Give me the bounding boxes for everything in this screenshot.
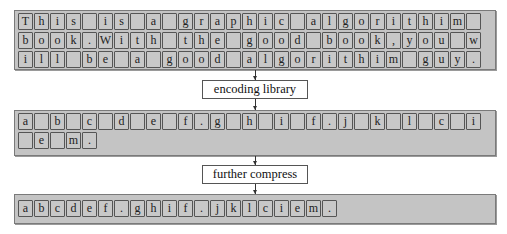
char-cell: . <box>194 113 209 130</box>
char-cell: a <box>242 51 257 68</box>
char-cell <box>162 113 177 130</box>
char-cell: f <box>306 113 321 130</box>
char-cell: s <box>114 13 129 30</box>
char-cell: l <box>34 51 49 68</box>
char-cell: r <box>370 13 385 30</box>
char-cell <box>450 113 465 130</box>
char-cell <box>162 13 177 30</box>
char-cell: i <box>18 51 33 68</box>
char-cell <box>114 51 129 68</box>
char-cell: y <box>450 51 465 68</box>
char-cell: b <box>322 32 337 49</box>
char-cell: c <box>274 13 289 30</box>
char-cell: o <box>258 32 273 49</box>
char-cell: i <box>466 113 481 130</box>
char-cell: i <box>98 13 113 30</box>
char-cell: a <box>146 13 161 30</box>
char-cell: g <box>418 51 433 68</box>
char-cell: i <box>258 13 273 30</box>
char-cell: l <box>322 13 337 30</box>
char-cell <box>226 113 241 130</box>
char-cell <box>18 132 33 149</box>
char-cell: o <box>274 32 289 49</box>
char-cell: o <box>418 32 433 49</box>
char-cell <box>258 113 273 130</box>
char-cell: i <box>114 32 129 49</box>
char-cell: d <box>210 51 225 68</box>
char-cell: c <box>82 113 97 130</box>
char-cell: g <box>130 200 145 217</box>
char-cell: t <box>178 32 193 49</box>
char-cell: m <box>306 200 321 217</box>
char-cell: c <box>258 200 273 217</box>
char-cell: . <box>194 200 209 217</box>
compressed-row: abcdef.ghif.jklciem. <box>18 200 492 218</box>
char-cell <box>306 32 321 49</box>
char-cell: i <box>322 51 337 68</box>
char-cell <box>290 13 305 30</box>
char-cell <box>130 113 145 130</box>
char-cell: i <box>162 200 177 217</box>
char-cell: t <box>402 13 417 30</box>
further-compress-label: further compress <box>202 165 308 184</box>
char-cell: j <box>338 113 353 130</box>
char-cell: w <box>466 32 481 49</box>
char-cell <box>386 113 401 130</box>
arrow-down-icon <box>255 99 256 110</box>
char-cell: a <box>18 200 33 217</box>
char-cell <box>402 51 417 68</box>
char-cell: d <box>66 200 81 217</box>
char-cell: o <box>338 32 353 49</box>
char-cell <box>450 32 465 49</box>
char-cell: h <box>146 32 161 49</box>
char-cell: r <box>306 51 321 68</box>
char-cell: k <box>370 113 385 130</box>
char-cell <box>34 113 49 130</box>
char-cell: k <box>370 32 385 49</box>
char-cell: l <box>258 51 273 68</box>
char-cell: a <box>18 113 33 130</box>
char-cell: o <box>194 51 209 68</box>
char-cell: p <box>226 13 241 30</box>
source-row: book.Withthegoodbook,youw <box>18 32 492 50</box>
char-cell <box>226 32 241 49</box>
char-cell: m <box>66 132 81 149</box>
source-row: Thisisagraphicalgorithim <box>18 13 492 31</box>
char-cell: m <box>386 51 401 68</box>
char-cell: o <box>354 32 369 49</box>
char-cell: e <box>290 200 305 217</box>
char-cell <box>290 113 305 130</box>
encoding-library-label: encoding library <box>202 80 308 99</box>
char-cell <box>418 113 433 130</box>
arrow-down-icon <box>255 156 256 165</box>
encoded-row: em. <box>18 132 492 150</box>
char-cell: h <box>354 51 369 68</box>
char-cell: g <box>338 13 353 30</box>
char-cell: e <box>146 113 161 130</box>
char-cell: h <box>242 113 257 130</box>
char-cell: . <box>322 113 337 130</box>
char-cell: g <box>162 51 177 68</box>
char-cell: o <box>354 13 369 30</box>
char-cell: b <box>18 32 33 49</box>
char-cell: c <box>434 113 449 130</box>
compressed-block: abcdef.ghif.jklciem. <box>14 194 496 224</box>
char-cell: t <box>338 51 353 68</box>
char-cell: a <box>210 13 225 30</box>
char-cell: o <box>34 32 49 49</box>
char-cell: i <box>386 13 401 30</box>
char-cell: a <box>306 13 321 30</box>
char-cell: . <box>114 200 129 217</box>
char-cell: h <box>194 32 209 49</box>
char-cell: s <box>66 13 81 30</box>
char-cell: g <box>210 113 225 130</box>
char-cell: t <box>130 32 145 49</box>
char-cell <box>82 13 97 30</box>
source-text-block: Thisisagraphicalgorithim book.Withthegoo… <box>14 10 496 70</box>
char-cell <box>354 113 369 130</box>
char-cell: i <box>434 13 449 30</box>
char-cell: b <box>50 113 65 130</box>
char-cell: a <box>130 51 145 68</box>
char-cell: o <box>178 51 193 68</box>
char-cell: m <box>450 13 465 30</box>
